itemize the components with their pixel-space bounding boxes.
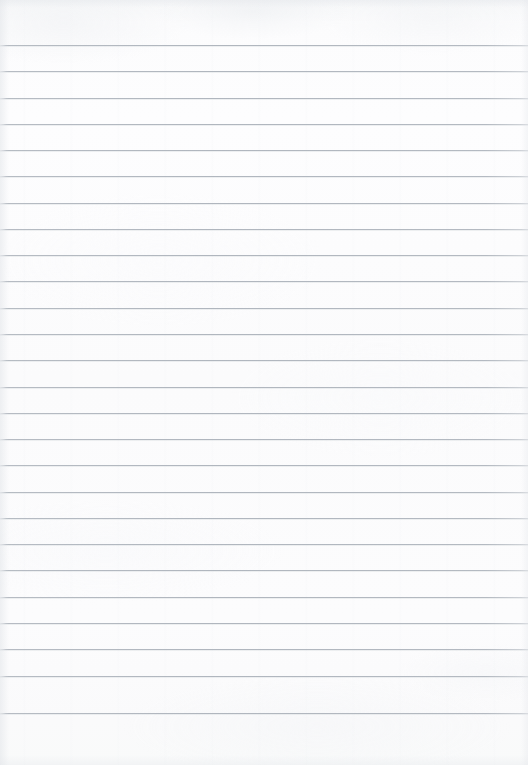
notebook-page xyxy=(0,0,528,765)
writing-area[interactable] xyxy=(0,45,528,725)
